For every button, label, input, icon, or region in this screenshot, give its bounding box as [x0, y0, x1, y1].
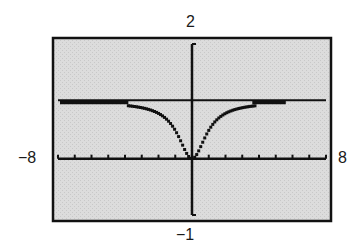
curve-point: [181, 144, 184, 147]
curve-point: [195, 153, 198, 156]
curve-point: [201, 141, 204, 144]
x-max-label: 8: [338, 150, 347, 166]
graph-screen: [0, 0, 362, 251]
curve-point: [203, 136, 206, 139]
curve-point: [171, 125, 174, 128]
curve-point: [207, 129, 210, 132]
curve-point: [199, 145, 202, 148]
curve-point: [175, 131, 178, 134]
curve-point: [253, 104, 256, 107]
curve-point: [177, 135, 180, 138]
y-min-label: −1: [176, 227, 194, 243]
curve-point: [193, 156, 196, 159]
curve-point: [183, 148, 186, 151]
curve-point: [179, 139, 182, 142]
curve-point: [205, 132, 208, 135]
curve-point: [189, 157, 192, 160]
curve-point: [173, 128, 176, 131]
x-min-label: −8: [18, 150, 36, 166]
curve-point: [169, 122, 172, 125]
y-max-label: 2: [186, 14, 195, 30]
curve-point: [209, 126, 212, 129]
curve-point: [185, 152, 188, 155]
curve-point: [197, 149, 200, 152]
